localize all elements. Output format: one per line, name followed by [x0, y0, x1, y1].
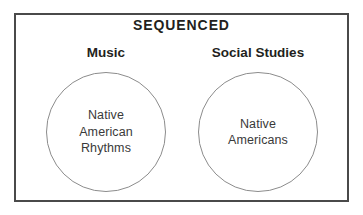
concept-circle-music-label-line-1: Native	[79, 107, 133, 124]
concept-circle-music-label-line-2: American	[79, 124, 133, 141]
diagram-title: SEQUENCED	[14, 17, 349, 34]
column-heading-music: Music	[46, 45, 166, 61]
concept-circle-music: Native American Rhythms	[46, 72, 166, 192]
concept-circle-music-label: Native American Rhythms	[73, 107, 139, 157]
concept-circle-music-label-line-3: Rhythms	[79, 140, 133, 157]
concept-circle-social-studies-label-line-2: Americans	[228, 132, 288, 149]
concept-circle-social-studies-label: Native Americans	[222, 116, 294, 149]
concept-circle-social-studies: Native Americans	[198, 72, 318, 192]
column-heading-social-studies: Social Studies	[198, 45, 318, 61]
concept-circle-social-studies-label-line-1: Native	[228, 116, 288, 133]
diagram-root: SEQUENCED Music Social Studies Native Am…	[0, 0, 363, 215]
